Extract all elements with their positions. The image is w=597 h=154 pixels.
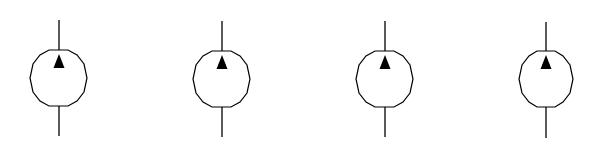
pump-symbol-4: Hydraulic pump (fixed displacement, unid… <box>506 0 586 154</box>
pump-icon <box>182 0 262 154</box>
pump-symbol-2: Hydraulic pump (fixed displacement, unid… <box>182 0 262 154</box>
pump-symbol-1: Hydraulic pump (fixed displacement, unid… <box>19 0 99 154</box>
diagram-canvas: Hydraulic pump (fixed displacement, unid… <box>0 0 597 154</box>
pump-icon <box>345 0 425 154</box>
pump-icon <box>506 0 586 154</box>
pump-symbol-3: Hydraulic pump (fixed displacement, unid… <box>345 0 425 154</box>
pump-icon <box>19 0 99 154</box>
